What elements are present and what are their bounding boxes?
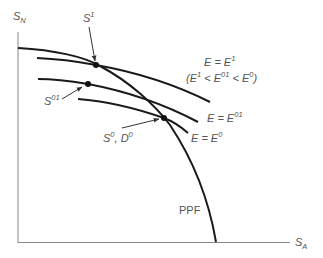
point-s01: [85, 81, 91, 87]
point-s0-d0: [161, 115, 167, 121]
label-s0-d0: S0, D0: [103, 130, 134, 144]
arrow-s01: [62, 87, 82, 99]
label-e01: E = E01: [207, 110, 243, 124]
label-e1: E = E1: [204, 54, 235, 68]
x-axis-label: SA: [295, 236, 307, 251]
arrow-s1: [89, 27, 95, 61]
ppf-diagram: SN SA S1 S01 S0, D0 E = E1 (E1 < E01 < E…: [0, 0, 323, 258]
label-e1-ordering-note: (E1 < E01 < E0): [186, 70, 257, 84]
y-axis-label: SN: [13, 10, 26, 25]
label-e0: E = E0: [191, 130, 223, 144]
point-s1: [93, 62, 99, 68]
label-s1: S1: [83, 10, 95, 24]
label-ppf: PPF: [179, 204, 201, 216]
label-s01: S01: [44, 93, 60, 107]
arrow-s0-d0: [122, 119, 159, 128]
